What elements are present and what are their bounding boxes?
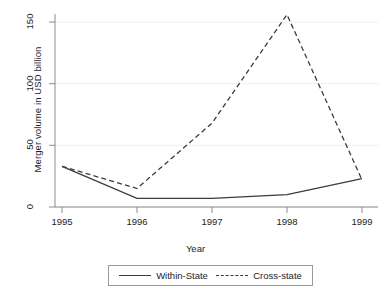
y-tick-label-100: 100 — [12, 78, 46, 90]
legend-label: Cross-state — [253, 270, 302, 281]
y-tick-label-0: 0 — [12, 201, 46, 213]
legend-label: Within-State — [156, 270, 208, 281]
series-line-within-state — [62, 166, 362, 198]
x-tick-label-1997: 1997 — [189, 216, 235, 227]
legend-key-dashed-line — [216, 275, 248, 277]
y-axis-ticks — [49, 22, 55, 207]
x-tick-label-1996: 1996 — [114, 216, 160, 227]
y-tick-text: 150 — [24, 5, 35, 39]
legend-item-within-state[interactable]: Within-State — [119, 270, 208, 281]
y-tick-text: 100 — [24, 67, 35, 101]
series-line-cross-state — [62, 15, 362, 189]
x-tick-label-1999: 1999 — [339, 216, 385, 227]
gridlines — [55, 22, 378, 207]
y-axis-label: Merger volume in USD billion — [32, 10, 43, 210]
y-tick-text: 0 — [24, 190, 35, 224]
legend-item-cross-state[interactable]: Cross-state — [216, 270, 302, 281]
x-tick-label-1998: 1998 — [264, 216, 310, 227]
y-tick-label-50: 50 — [12, 139, 46, 151]
x-tick-label-1995: 1995 — [39, 216, 85, 227]
x-axis-ticks — [62, 207, 362, 213]
chart-figure: .gl { stroke: #eeeeee; stroke-width: 1; … — [0, 0, 391, 295]
chart-legend: Within-State Cross-state — [108, 265, 313, 286]
x-axis-label: Year — [0, 243, 391, 254]
y-tick-label-150: 150 — [12, 16, 46, 28]
y-tick-text: 50 — [24, 128, 35, 162]
legend-key-solid-line — [119, 275, 151, 277]
